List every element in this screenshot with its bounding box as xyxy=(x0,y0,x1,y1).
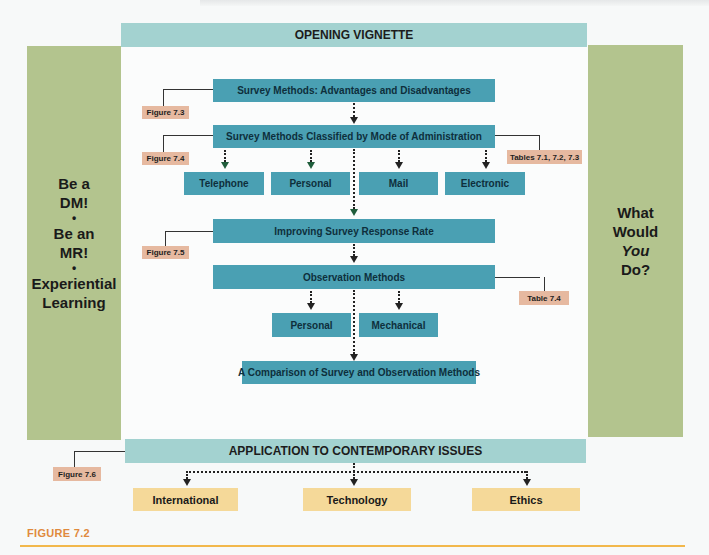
right-panel-emphasis: You xyxy=(622,242,650,259)
left-panel-line: MR! xyxy=(60,243,88,262)
right-panel: What Would You Do? xyxy=(588,45,683,437)
right-panel-line: Would xyxy=(613,222,659,241)
connector-line xyxy=(163,135,213,136)
connector-line xyxy=(163,89,213,90)
arrow-down-icon xyxy=(395,303,403,310)
connector-line xyxy=(544,277,545,291)
improving-response-rate-box: Improving Survey Response Rate xyxy=(213,219,495,243)
arrow-down-icon xyxy=(350,479,358,486)
dotted-connector xyxy=(353,103,355,117)
left-panel-line: Be an xyxy=(54,224,95,243)
dotted-connector xyxy=(526,471,528,479)
opening-vignette-bar: OPENING VIGNETTE xyxy=(121,23,587,47)
figure-7-5-badge: Figure 7.5 xyxy=(142,246,189,259)
issue-technology-box: Technology xyxy=(303,488,411,511)
comparison-box: A Comparison of Survey and Observation M… xyxy=(242,361,476,384)
left-panel-line: Experiential xyxy=(31,274,116,293)
arrow-down-icon xyxy=(307,162,315,169)
dotted-connector xyxy=(353,290,355,354)
tables-7-1-7-2-7-3-badge: Tables 7.1, 7.2, 7.3 xyxy=(507,150,582,164)
table-7-4-badge: Table 7.4 xyxy=(519,291,569,305)
dotted-connector xyxy=(224,150,226,162)
mode-personal-box: Personal xyxy=(271,172,350,195)
issue-international-box: International xyxy=(133,488,238,511)
arrow-down-icon xyxy=(482,162,490,169)
dotted-connector xyxy=(398,291,400,303)
bullet-separator: • xyxy=(72,212,76,224)
connector-line xyxy=(74,451,75,467)
dotted-connector xyxy=(353,244,355,256)
left-panel-line: DM! xyxy=(60,193,88,212)
bullet-separator: • xyxy=(72,262,76,274)
figure-7-6-badge: Figure 7.6 xyxy=(53,467,101,481)
arrow-down-icon xyxy=(350,117,358,124)
connector-line xyxy=(495,277,540,278)
arrow-down-icon xyxy=(183,479,191,486)
arrow-down-icon xyxy=(395,162,403,169)
connector-line xyxy=(75,451,125,452)
arrow-down-icon xyxy=(221,162,229,169)
arrow-down-icon xyxy=(350,209,358,216)
mode-electronic-box: Electronic xyxy=(445,172,525,195)
observation-methods-box: Observation Methods xyxy=(213,265,495,289)
mode-telephone-box: Telephone xyxy=(184,172,264,195)
left-panel-line: Learning xyxy=(42,293,105,312)
figure-caption: FIGURE 7.2 xyxy=(27,527,90,539)
arrow-down-icon xyxy=(307,303,315,310)
dotted-connector xyxy=(353,149,355,209)
figure-7-4-badge: Figure 7.4 xyxy=(142,152,189,165)
caption-rule xyxy=(20,545,685,547)
chapter-running-head xyxy=(200,0,709,6)
observation-personal-box: Personal xyxy=(272,313,351,337)
arrow-down-icon xyxy=(350,354,358,361)
arrow-down-icon xyxy=(523,479,531,486)
connector-line xyxy=(495,135,540,136)
connector-line xyxy=(165,231,213,232)
dotted-connector xyxy=(353,471,355,479)
dotted-connector xyxy=(310,291,312,303)
connector-line xyxy=(539,135,540,150)
left-panel: Be a DM! • Be an MR! • Experiential Lear… xyxy=(27,46,121,440)
right-panel-line: You xyxy=(622,241,650,260)
left-panel-line: Be a xyxy=(58,174,90,193)
survey-methods-advantages-box: Survey Methods: Advantages and Disadvant… xyxy=(213,79,495,102)
dotted-connector-horizontal xyxy=(186,471,526,473)
dotted-connector xyxy=(398,150,400,162)
connector-line xyxy=(163,135,164,152)
figure-7-3-badge: Figure 7.3 xyxy=(142,106,189,119)
observation-mechanical-box: Mechanical xyxy=(359,313,438,337)
right-panel-line: Do? xyxy=(621,260,650,279)
dotted-connector xyxy=(485,150,487,162)
mode-mail-box: Mail xyxy=(359,172,438,195)
dotted-connector xyxy=(186,471,188,479)
dotted-connector xyxy=(310,150,312,162)
survey-methods-classified-box: Survey Methods Classified by Mode of Adm… xyxy=(213,125,495,148)
issue-ethics-box: Ethics xyxy=(472,488,580,511)
application-contemporary-issues-bar: APPLICATION TO CONTEMPORARY ISSUES xyxy=(125,439,586,463)
right-panel-line: What xyxy=(617,203,654,222)
arrow-down-icon xyxy=(350,256,358,263)
connector-line xyxy=(163,89,164,106)
connector-line xyxy=(165,231,166,246)
